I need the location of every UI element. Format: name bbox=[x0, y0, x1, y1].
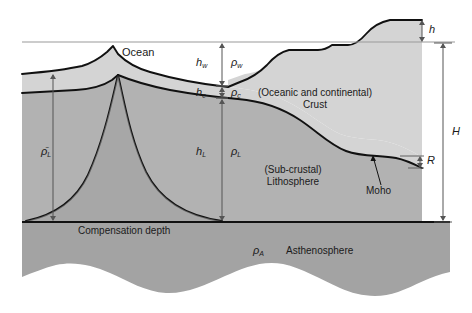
rho-mean-lithosphere-symbol: ρ̄L bbox=[41, 146, 51, 157]
root-R-symbol: R bbox=[427, 155, 435, 166]
moho-label: Moho bbox=[366, 186, 391, 196]
lithosphere-label-line2: Lithosphere bbox=[248, 177, 338, 187]
ocean-label: Ocean bbox=[122, 47, 154, 58]
isostasy-diagram: Ocean (Oceanic and continental) Crust (S… bbox=[0, 0, 472, 313]
crust-label-line2: Crust bbox=[255, 100, 375, 110]
total-H-symbol: H bbox=[452, 126, 460, 137]
crust-label-line1: (Oceanic and continental) bbox=[255, 88, 375, 98]
elevation-h-symbol: h bbox=[429, 24, 435, 35]
rho-crust-symbol: ρc bbox=[231, 87, 241, 98]
rho-asthenosphere-symbol: ρA bbox=[253, 245, 264, 256]
rho-water-symbol: ρw bbox=[231, 57, 242, 68]
compensation-depth-label: Compensation depth bbox=[78, 226, 170, 236]
h-water-symbol: hw bbox=[196, 57, 207, 68]
lithosphere-label-line1: (Sub-crustal) bbox=[248, 165, 338, 175]
rho-lithosphere-symbol: ρL bbox=[231, 146, 241, 157]
h-crust-symbol: hc bbox=[196, 87, 206, 98]
h-lithosphere-symbol: hL bbox=[196, 146, 206, 157]
asthenosphere-label: Asthenosphere bbox=[286, 246, 353, 256]
